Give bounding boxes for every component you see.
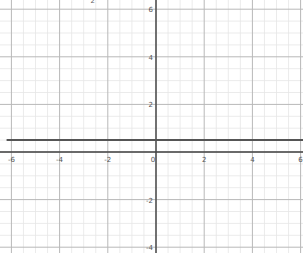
axes	[0, 0, 303, 253]
x-tick-label: -2	[104, 156, 111, 164]
clipped-label: 2	[90, 0, 94, 5]
coordinate-plane: -6-4-20246642-2-42	[0, 0, 303, 253]
x-tick-label: 4	[250, 156, 255, 164]
major-gridlines	[0, 0, 303, 253]
x-tick-label: 0	[151, 156, 155, 164]
y-tick-label: 6	[149, 6, 154, 14]
y-tick-label: 2	[149, 101, 153, 109]
x-tick-label: 2	[202, 156, 206, 164]
x-tick-label: -6	[8, 156, 16, 164]
y-tick-label: -2	[146, 197, 153, 205]
x-tick-label: 6	[298, 156, 303, 164]
x-tick-label: -4	[56, 156, 64, 164]
y-tick-label: -4	[146, 244, 154, 252]
y-tick-label: 4	[149, 54, 154, 62]
minor-gridlines	[0, 0, 303, 253]
